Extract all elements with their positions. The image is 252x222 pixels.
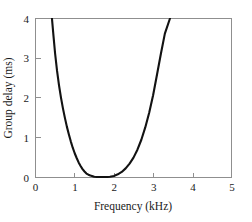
y-axis-tick-labels: 0 1 2 3 4 (24, 13, 30, 184)
x-tick-label-4: 4 (190, 181, 196, 193)
x-tick-label-5: 5 (229, 181, 235, 193)
y-tick-label-1: 1 (24, 132, 30, 144)
group-delay-chart: 0 1 2 3 4 5 0 1 2 3 4 Frequency (kHz) Gr… (0, 0, 252, 222)
x-tick-label-3: 3 (151, 181, 157, 193)
x-tick-label-2: 2 (112, 181, 118, 193)
y-axis-title: Group delay (ms) (2, 57, 15, 138)
plot-area-background (35, 18, 232, 177)
y-tick-label-4: 4 (24, 13, 30, 25)
x-tick-label-0: 0 (33, 181, 39, 193)
y-tick-label-0: 0 (24, 172, 30, 184)
x-axis-title: Frequency (kHz) (94, 200, 172, 213)
chart-figure: 0 1 2 3 4 5 0 1 2 3 4 Frequency (kHz) Gr… (0, 0, 252, 222)
y-tick-label-2: 2 (24, 92, 30, 104)
x-tick-label-1: 1 (72, 181, 78, 193)
x-axis-tick-labels: 0 1 2 3 4 5 (33, 181, 236, 193)
y-tick-label-3: 3 (24, 52, 30, 64)
